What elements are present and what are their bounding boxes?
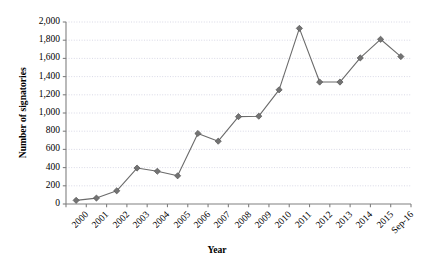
y-axis-tick-label: 400: [6, 163, 60, 173]
y-axis-tick-label: 800: [6, 126, 60, 136]
y-axis-tick-label: 200: [6, 181, 60, 191]
chart-container: Number of signatories Year 0200400600800…: [0, 0, 434, 269]
y-axis-tick-label: 1,800: [6, 35, 60, 45]
y-axis-tick-label: 2,000: [6, 17, 60, 27]
y-axis-tick-label: 1,600: [6, 53, 60, 63]
y-axis-tick-label: 1,400: [6, 72, 60, 82]
y-axis-tick-label: 1,200: [6, 90, 60, 100]
y-axis-tick-label: 0: [6, 199, 60, 209]
y-axis-tick-label: 1,000: [6, 108, 60, 118]
y-axis-tick-label: 600: [6, 144, 60, 154]
